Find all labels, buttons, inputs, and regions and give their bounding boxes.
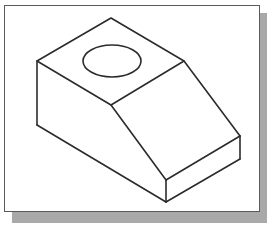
hole-circle <box>83 45 141 77</box>
inclined-left-edge <box>111 105 166 180</box>
front-top-edge <box>166 136 240 180</box>
bottom-left-edge <box>37 125 166 202</box>
inclined-right-edge <box>184 61 240 136</box>
top-face <box>37 18 184 105</box>
bottom-right-edge <box>166 159 240 202</box>
isometric-block-drawing <box>0 0 272 225</box>
